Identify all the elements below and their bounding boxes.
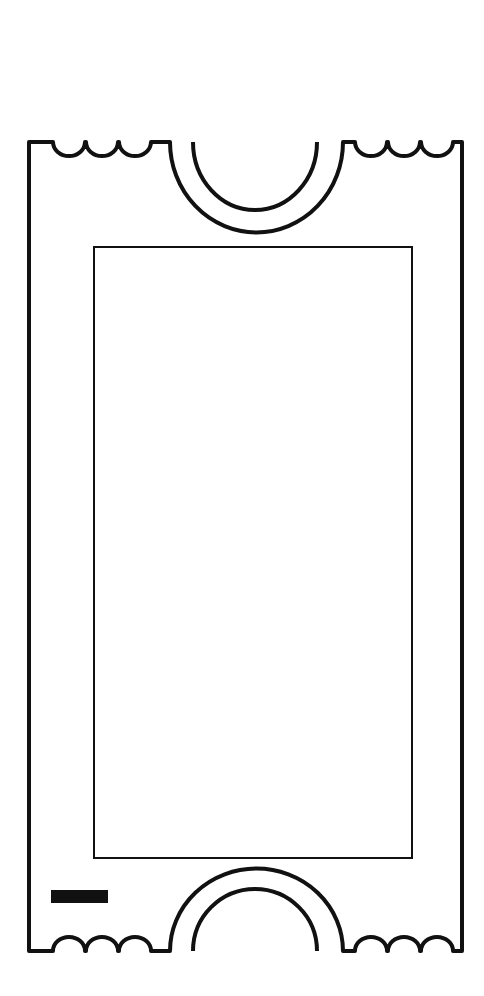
bottom-notch-inner-line [193,889,317,951]
ticket-body-frame [94,247,412,858]
ticket-stub-bar [51,890,108,903]
top-notch-inner-line [193,142,317,210]
ticket-illustration [0,0,484,996]
